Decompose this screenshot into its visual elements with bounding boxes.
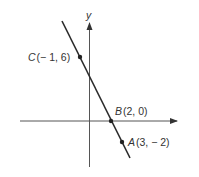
point-a-label: A(3, − 2) bbox=[127, 136, 170, 148]
y-axis-label: y bbox=[85, 9, 92, 21]
coordinate-diagram: y C(− 1, 6) B(2, 0) A(3, − 2) bbox=[0, 0, 199, 177]
point-b-dot bbox=[109, 119, 113, 123]
point-c-label: C(− 1, 6) bbox=[28, 51, 70, 63]
point-c-dot bbox=[78, 55, 82, 59]
line-cba bbox=[62, 21, 130, 158]
point-b-label: B(2, 0) bbox=[115, 105, 148, 117]
point-a-dot bbox=[120, 140, 124, 144]
